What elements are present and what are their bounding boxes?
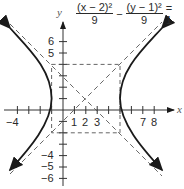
- x-axis: [4, 106, 174, 114]
- y-term-denominator: 9: [141, 14, 147, 26]
- y-axis: [59, 22, 67, 186]
- y-axis-label: y: [57, 6, 62, 18]
- graph-canvas: [0, 0, 184, 189]
- x-term-numerator: (x − 2)²: [76, 1, 113, 14]
- fraction-y-term: (y − 1)² 9: [126, 1, 163, 26]
- equation: (x − 2)² 9 − (y − 1)² 9 = 1: [76, 1, 184, 26]
- asymptotes: [10, 22, 162, 176]
- equation-rhs: = 1: [166, 2, 181, 26]
- fraction-x-term: (x − 2)² 9: [76, 1, 113, 26]
- x-tick-label: 2: [82, 117, 88, 128]
- right-branch: [120, 28, 162, 170]
- minus-sign: −: [116, 8, 122, 20]
- y-term-numerator: (y − 1)²: [126, 1, 163, 14]
- x-tick-label: 8: [151, 117, 157, 128]
- x-term-denominator: 9: [92, 14, 98, 26]
- hyperbola-branches: [10, 28, 162, 170]
- y-tick-label: −6: [41, 173, 54, 184]
- y-tick-label: −5: [41, 161, 54, 172]
- x-tick-label: 7: [140, 117, 146, 128]
- y-tick-label: 6: [48, 36, 54, 47]
- x-axis-label: x: [177, 103, 182, 115]
- asymptote-negative-slope: [10, 24, 162, 176]
- y-tick-label: 5: [48, 48, 54, 59]
- asymptote-positive-slope: [10, 22, 162, 174]
- x-tick-label: −4: [6, 117, 19, 128]
- x-tick-label: 3: [94, 117, 100, 128]
- hyperbola-figure: (x − 2)² 9 − (y − 1)² 9 = 1 y x −4 1 2 3…: [0, 0, 184, 189]
- x-tick-label: 1: [71, 117, 77, 128]
